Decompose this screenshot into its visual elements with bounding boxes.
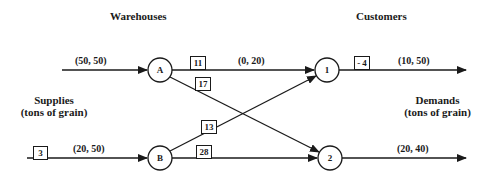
supplies-label: Supplies (tons of grain) bbox=[14, 94, 94, 118]
node-2-label: 2 bbox=[318, 152, 342, 164]
edge-A-2 bbox=[170, 77, 319, 152]
edge-B-1-cost-box: 13 bbox=[201, 120, 217, 134]
supplies-label-line2: (tons of grain) bbox=[14, 106, 94, 118]
supply-A-bounds: (50, 50) bbox=[75, 55, 107, 67]
edge-A-2-cost-box: 17 bbox=[195, 77, 211, 91]
demands-label-line1: Demands bbox=[395, 94, 480, 106]
edge-B-2-cost-box: 28 bbox=[196, 145, 212, 159]
edge-A-1-bounds: (0, 20) bbox=[238, 55, 265, 67]
demand-1-bounds: (10, 50) bbox=[398, 55, 430, 67]
demands-label-line2: (tons of grain) bbox=[395, 106, 480, 118]
demand-1-cost-box: - 4 bbox=[354, 56, 370, 70]
edge-A-1-cost-box: 11 bbox=[190, 56, 206, 70]
supplies-label-line1: Supplies bbox=[14, 94, 94, 106]
demand-2-bounds: (20, 40) bbox=[397, 143, 429, 155]
supply-B-cost-box: 3 bbox=[33, 146, 48, 160]
customers-header: Customers bbox=[356, 10, 407, 22]
warehouses-header: Warehouses bbox=[110, 10, 167, 22]
node-A-label: A bbox=[148, 64, 172, 76]
supply-B-bounds: (20, 50) bbox=[73, 143, 105, 155]
demands-label: Demands (tons of grain) bbox=[395, 94, 480, 118]
node-1-label: 1 bbox=[315, 64, 339, 76]
node-B-label: B bbox=[148, 152, 172, 164]
